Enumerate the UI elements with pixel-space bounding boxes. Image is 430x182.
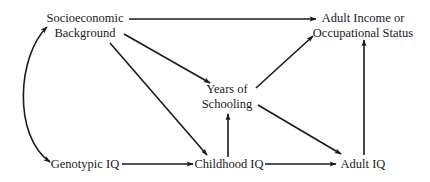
- arrow-socio-to-schooling: [124, 34, 210, 83]
- node-income-line1: Adult Income or: [303, 11, 423, 26]
- node-years-of-schooling: Years of Schooling: [192, 82, 262, 112]
- node-genotypic-label: Genotypic IQ: [50, 157, 120, 172]
- arrow-socio-genotypic-correlation: [23, 27, 50, 162]
- node-income-line2: Occupational Status: [303, 26, 423, 41]
- node-adult-iq: Adult IQ: [338, 157, 388, 172]
- arrow-schooling-to-adultiq: [258, 105, 341, 154]
- node-socioeconomic-background: Socioeconomic Background: [40, 11, 130, 41]
- node-socioeconomic-line1: Socioeconomic: [40, 11, 130, 26]
- path-diagram: Socioeconomic Background Adult Income or…: [0, 0, 430, 182]
- node-adult-income-occupational-status: Adult Income or Occupational Status: [303, 11, 423, 41]
- arrow-schooling-to-income: [256, 36, 313, 88]
- node-schooling-line2: Schooling: [192, 97, 262, 112]
- node-socioeconomic-line2: Background: [40, 26, 130, 41]
- node-schooling-line1: Years of: [192, 82, 262, 97]
- node-childhood-label: Childhood IQ: [194, 157, 264, 172]
- node-adultiq-label: Adult IQ: [338, 157, 388, 172]
- node-genotypic-iq: Genotypic IQ: [50, 157, 120, 172]
- node-childhood-iq: Childhood IQ: [194, 157, 264, 172]
